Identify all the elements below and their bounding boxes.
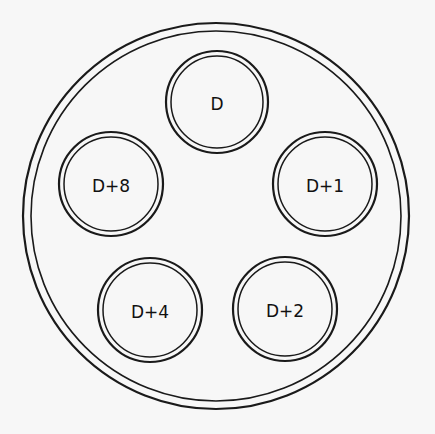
- well-label-d-plus-4: D+4: [110, 301, 190, 323]
- well-label-d: D: [177, 93, 257, 115]
- dish-inner-rim: [31, 31, 401, 401]
- well-label-d-plus-8: D+8: [71, 175, 151, 197]
- petri-dish-diagram: D D+1 D+2 D+4 D+8: [0, 0, 435, 434]
- well-label-d-plus-2: D+2: [245, 300, 325, 322]
- dish-outer-rim: [23, 23, 409, 409]
- well-label-d-plus-1: D+1: [285, 175, 365, 197]
- petri-dish-svg: [0, 0, 435, 434]
